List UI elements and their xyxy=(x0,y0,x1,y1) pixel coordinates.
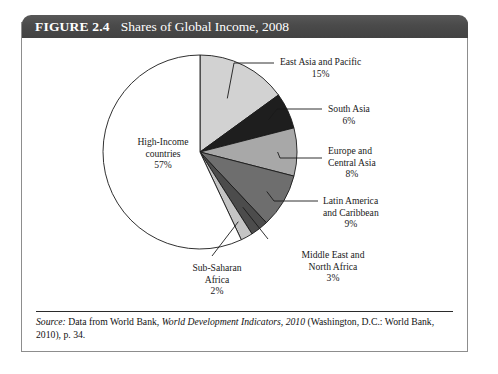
slice-value-text: 3% xyxy=(283,272,383,284)
slice-label-text-2: North Africa xyxy=(283,261,383,273)
slice-label-text: Middle East and xyxy=(283,249,383,261)
slice-label-south-asia: South Asia 6% xyxy=(328,103,370,126)
slice-label-text-2: Central Asia xyxy=(328,157,376,169)
slice-label-text: South Asia xyxy=(328,103,370,115)
slice-label-text-2: countries xyxy=(115,148,211,160)
slice-value-text: 2% xyxy=(172,285,262,297)
source-divider xyxy=(36,311,453,312)
slice-label-text-2: Africa xyxy=(172,274,262,286)
slice-label-text: High-Income xyxy=(115,136,211,148)
slice-value-text: 15% xyxy=(280,68,361,80)
slice-label-text-2: and Caribbean xyxy=(323,207,379,219)
figure-title: Shares of Global Income, 2008 xyxy=(121,19,289,35)
source-publication-title: World Development Indicators, 2010 xyxy=(162,316,305,327)
figure-banner: FIGURE 2.4 Shares of Global Income, 2008 xyxy=(22,15,468,38)
slice-label-high-income-countries: High-Income countries 57% xyxy=(115,136,211,171)
slice-label-text: Latin America xyxy=(323,195,379,207)
slice-label-text: Sub-Saharan xyxy=(172,262,262,274)
source-prefix: Source: xyxy=(36,316,66,327)
figure-number-label: FIGURE 2.4 xyxy=(35,19,110,35)
source-text-before: Data from World Bank, xyxy=(66,316,162,327)
slice-label-middle-east-and-north-africa: Middle East and North Africa 3% xyxy=(283,249,383,284)
slice-value-text: 9% xyxy=(323,218,379,230)
slice-value-text: 57% xyxy=(115,159,211,171)
slice-label-text: Europe and xyxy=(328,145,376,157)
slice-value-text: 8% xyxy=(328,168,376,180)
source-note: Source: Data from World Bank, World Deve… xyxy=(36,316,456,341)
slice-label-text: East Asia and Pacific xyxy=(280,56,361,68)
pie-chart-area: East Asia and Pacific 15% South Asia 6% … xyxy=(22,40,467,302)
slice-label-east-asia-and-pacific: East Asia and Pacific 15% xyxy=(280,56,361,79)
slice-label-latin-america-and-caribbean: Latin America and Caribbean 9% xyxy=(323,195,379,230)
figure-root: FIGURE 2.4 Shares of Global Income, 2008… xyxy=(0,0,498,374)
slice-value-text: 6% xyxy=(328,115,370,127)
slice-label-sub-saharan-africa: Sub-Saharan Africa 2% xyxy=(172,262,262,297)
slice-label-europe-and-central-asia: Europe and Central Asia 8% xyxy=(328,145,376,180)
